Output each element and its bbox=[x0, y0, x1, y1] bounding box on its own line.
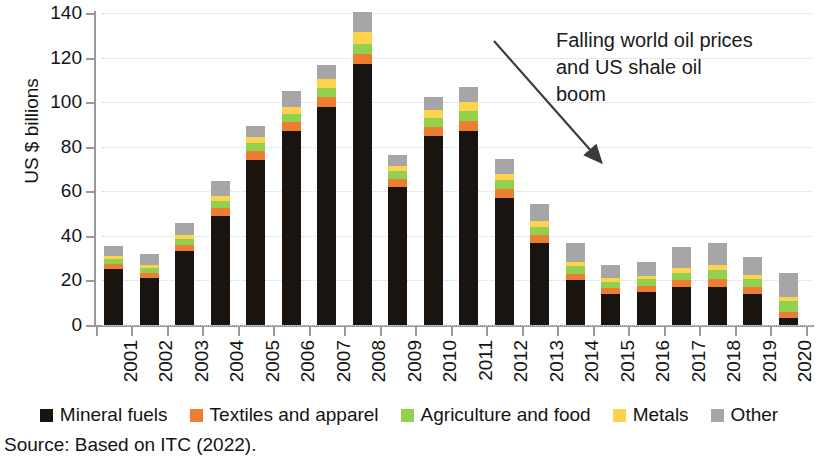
legend-swatch-icon bbox=[401, 409, 414, 422]
bar-segment bbox=[530, 243, 549, 325]
annotation-line-2: and US shale oil bbox=[556, 54, 808, 81]
bar-segment bbox=[601, 294, 620, 325]
x-axis-tick bbox=[628, 327, 630, 336]
y-axis-tick bbox=[86, 236, 95, 238]
bar-segment bbox=[530, 235, 549, 243]
x-axis-tick-label: 2004 bbox=[227, 340, 247, 404]
x-axis-tick-label: 2020 bbox=[795, 340, 815, 404]
y-axis-tick bbox=[86, 13, 95, 15]
legend-item-3[interactable]: Metals bbox=[613, 404, 689, 426]
bar-segment bbox=[388, 179, 407, 187]
x-axis-tick-label: 2007 bbox=[334, 340, 354, 404]
bar-segment bbox=[601, 265, 620, 278]
annotation-line-3: boom bbox=[556, 81, 808, 108]
y-axis-title-holder: US $ billions bbox=[0, 0, 40, 340]
legend-item-2[interactable]: Agriculture and food bbox=[401, 404, 591, 426]
legend-label: Mineral fuels bbox=[60, 404, 168, 426]
bar-segment bbox=[246, 160, 265, 325]
legend-item-4[interactable]: Other bbox=[711, 404, 779, 426]
bar-segment bbox=[353, 12, 372, 32]
bar-2002 bbox=[140, 254, 159, 325]
bar-segment bbox=[672, 247, 691, 268]
bar-2007 bbox=[317, 65, 336, 325]
gridline bbox=[102, 280, 812, 281]
legend-swatch-icon bbox=[40, 409, 53, 422]
bar-segment bbox=[779, 301, 798, 312]
bar-2008 bbox=[353, 12, 372, 325]
legend-label: Textiles and apparel bbox=[210, 404, 379, 426]
bar-segment bbox=[566, 274, 585, 281]
x-axis-tick bbox=[380, 327, 382, 336]
x-axis-tick-label: 2010 bbox=[440, 340, 460, 404]
bar-segment bbox=[211, 181, 230, 195]
bar-segment bbox=[530, 227, 549, 235]
x-axis-tick-label: 2018 bbox=[724, 340, 744, 404]
x-axis-tick bbox=[238, 327, 240, 336]
y-axis-tick bbox=[86, 325, 95, 327]
y-axis-tick bbox=[86, 191, 95, 193]
bar-segment bbox=[708, 270, 727, 279]
bar-segment bbox=[388, 171, 407, 179]
bar-segment bbox=[424, 118, 443, 127]
x-axis-tick-label: 2006 bbox=[298, 340, 318, 404]
legend-swatch-icon bbox=[190, 409, 203, 422]
x-axis-tick bbox=[415, 327, 417, 336]
bar-segment bbox=[424, 97, 443, 110]
bar-2013 bbox=[530, 204, 549, 325]
y-axis-title: US $ billions bbox=[21, 21, 43, 241]
x-axis-tick-label: 2013 bbox=[547, 340, 567, 404]
legend-item-1[interactable]: Textiles and apparel bbox=[190, 404, 379, 426]
x-axis-tick bbox=[806, 327, 808, 336]
gridline bbox=[102, 191, 812, 192]
x-axis-tick-label: 2008 bbox=[369, 340, 389, 404]
bar-2018 bbox=[708, 243, 727, 325]
bar-segment bbox=[637, 292, 656, 325]
bar-2010 bbox=[424, 97, 443, 325]
legend-swatch-icon bbox=[711, 409, 724, 422]
x-axis-tick bbox=[557, 327, 559, 336]
bar-segment bbox=[779, 312, 798, 319]
x-axis-tick bbox=[96, 327, 98, 336]
bar-segment bbox=[317, 97, 336, 107]
bar-segment bbox=[104, 246, 123, 256]
bar-segment bbox=[708, 243, 727, 265]
bar-segment bbox=[743, 279, 762, 287]
x-axis-tick bbox=[735, 327, 737, 336]
bar-segment bbox=[743, 257, 762, 275]
x-axis-tick-label: 2015 bbox=[618, 340, 638, 404]
bar-segment bbox=[282, 107, 301, 115]
x-axis-tick bbox=[167, 327, 169, 336]
bar-2001 bbox=[104, 246, 123, 325]
y-axis-tick bbox=[86, 102, 95, 104]
x-axis-tick bbox=[522, 327, 524, 336]
y-axis-tick bbox=[86, 58, 95, 60]
bar-2012 bbox=[495, 159, 514, 325]
x-axis-tick bbox=[309, 327, 311, 336]
x-axis-tick-label: 2012 bbox=[511, 340, 531, 404]
bar-segment bbox=[246, 126, 265, 137]
bar-segment bbox=[246, 137, 265, 144]
bar-segment bbox=[317, 65, 336, 78]
bar-segment bbox=[140, 254, 159, 265]
bar-segment bbox=[211, 216, 230, 325]
bar-segment bbox=[282, 114, 301, 122]
bar-segment bbox=[388, 187, 407, 325]
x-axis-tick bbox=[664, 327, 666, 336]
bar-2019 bbox=[743, 257, 762, 325]
x-axis-tick-label: 2003 bbox=[192, 340, 212, 404]
bar-2015 bbox=[601, 265, 620, 325]
gridline bbox=[102, 325, 812, 326]
bar-segment bbox=[495, 198, 514, 325]
x-axis-tick-label: 2011 bbox=[476, 340, 496, 404]
bar-segment bbox=[601, 282, 620, 289]
bar-segment bbox=[353, 54, 372, 64]
bar-segment bbox=[424, 127, 443, 136]
bar-segment bbox=[743, 294, 762, 325]
legend-item-0[interactable]: Mineral fuels bbox=[40, 404, 168, 426]
legend-label: Agriculture and food bbox=[421, 404, 591, 426]
x-axis-tick-label: 2017 bbox=[689, 340, 709, 404]
bar-2020 bbox=[779, 273, 798, 325]
bar-segment bbox=[282, 122, 301, 131]
bar-segment bbox=[388, 155, 407, 166]
bar-segment bbox=[459, 121, 478, 131]
